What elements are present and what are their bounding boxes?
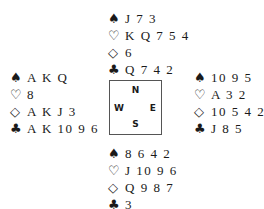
east-hearts: A 3 2 xyxy=(211,86,247,103)
north-clubs-row: ♣ Q 7 4 2 xyxy=(108,61,190,78)
east-diamonds-row: ◇ 10 5 4 2 xyxy=(194,103,264,120)
south-spades: 8 6 4 2 xyxy=(125,145,171,162)
south-hearts-row: ♡ J 10 9 6 xyxy=(108,162,178,179)
west-hearts: 8 xyxy=(27,86,35,103)
compass-south-label: S xyxy=(132,119,138,129)
spade-icon: ♠ xyxy=(194,69,211,86)
west-diamonds-row: ◇ A K J 3 xyxy=(10,103,99,120)
east-clubs-row: ♣ J 8 5 xyxy=(194,120,264,137)
club-icon: ♣ xyxy=(10,120,27,137)
north-clubs: Q 7 4 2 xyxy=(125,61,174,78)
south-clubs: 3 xyxy=(125,196,133,209)
west-hand: ♠ A K Q ♡ 8 ◇ A K J 3 ♣ A K 10 9 6 xyxy=(10,69,99,137)
club-icon: ♣ xyxy=(194,120,211,137)
south-clubs-row: ♣ 3 xyxy=(108,196,178,209)
east-diamonds: 10 5 4 2 xyxy=(211,103,264,120)
spade-icon: ♠ xyxy=(10,69,27,86)
heart-icon: ♡ xyxy=(108,162,125,179)
north-diamonds-row: ◇ 6 xyxy=(108,44,190,61)
north-hearts-row: ♡ K Q 7 5 4 xyxy=(108,27,190,44)
north-diamonds: 6 xyxy=(125,44,133,61)
diamond-icon: ◇ xyxy=(108,44,125,61)
spade-icon: ♠ xyxy=(108,10,125,27)
north-spades: J 7 3 xyxy=(125,10,157,27)
diamond-icon: ◇ xyxy=(10,103,27,120)
south-diamonds-row: ◇ Q 9 8 7 xyxy=(108,179,178,196)
compass-east-label: E xyxy=(150,103,156,113)
west-clubs: A K 10 9 6 xyxy=(27,120,99,137)
diamond-icon: ◇ xyxy=(194,103,211,120)
compass-north-label: N xyxy=(132,85,140,95)
heart-icon: ♡ xyxy=(10,86,27,103)
compass-box: N W E S xyxy=(109,80,162,135)
south-diamonds: Q 9 8 7 xyxy=(125,179,174,196)
north-hearts: K Q 7 5 4 xyxy=(125,27,190,44)
spade-icon: ♠ xyxy=(108,145,125,162)
west-clubs-row: ♣ A K 10 9 6 xyxy=(10,120,99,137)
south-hearts: J 10 9 6 xyxy=(125,162,178,179)
heart-icon: ♡ xyxy=(108,27,125,44)
east-hand: ♠ 10 9 5 ♡ A 3 2 ◇ 10 5 4 2 ♣ J 8 5 xyxy=(194,69,264,137)
east-spades: 10 9 5 xyxy=(211,69,253,86)
club-icon: ♣ xyxy=(108,196,125,209)
west-diamonds: A K J 3 xyxy=(27,103,77,120)
south-spades-row: ♠ 8 6 4 2 xyxy=(108,145,178,162)
north-spades-row: ♠ J 7 3 xyxy=(108,10,190,27)
club-icon: ♣ xyxy=(108,61,125,78)
diamond-icon: ◇ xyxy=(108,179,125,196)
east-hearts-row: ♡ A 3 2 xyxy=(194,86,264,103)
east-spades-row: ♠ 10 9 5 xyxy=(194,69,264,86)
east-clubs: J 8 5 xyxy=(211,120,243,137)
compass-west-label: W xyxy=(114,103,124,113)
heart-icon: ♡ xyxy=(194,86,211,103)
north-hand: ♠ J 7 3 ♡ K Q 7 5 4 ◇ 6 ♣ Q 7 4 2 xyxy=(108,10,190,78)
west-hearts-row: ♡ 8 xyxy=(10,86,99,103)
west-spades: A K Q xyxy=(27,69,68,86)
west-spades-row: ♠ A K Q xyxy=(10,69,99,86)
south-hand: ♠ 8 6 4 2 ♡ J 10 9 6 ◇ Q 9 8 7 ♣ 3 xyxy=(108,145,178,209)
